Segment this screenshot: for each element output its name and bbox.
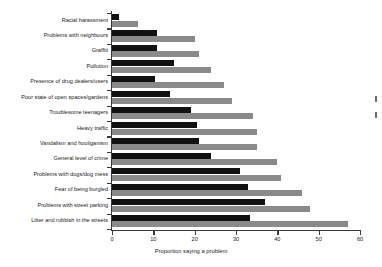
y-axis-tick (107, 229, 111, 230)
category-label: Poor state of open spaces/gardens (21, 94, 108, 101)
bar-light (112, 36, 195, 42)
x-axis-tick (195, 231, 196, 235)
bar-light (112, 159, 277, 165)
bar-dark (112, 60, 174, 66)
category-label: Racial harassment (62, 17, 108, 24)
x-axis-tick (319, 231, 320, 235)
category-label: Problems with street parking (37, 202, 108, 209)
category-label: Heavy traffic (77, 125, 108, 132)
bar-dark (112, 14, 119, 20)
x-axis-tick-label: 60 (357, 236, 363, 242)
bar-light (112, 129, 257, 135)
y-axis-tick (107, 121, 111, 122)
plot-area (112, 12, 360, 230)
y-axis-tick (107, 183, 111, 184)
bar-dark (112, 122, 197, 128)
y-axis-tick (107, 28, 111, 29)
y-axis-tick (107, 152, 111, 153)
category-label: Litter and rubbish in the streets (31, 217, 108, 224)
bar-chart: Racial harassmentProblems with neighbour… (0, 0, 382, 267)
bar-light (112, 206, 310, 212)
y-axis-tick (107, 13, 111, 14)
category-label: Graffiti (92, 47, 108, 54)
bar-dark (112, 199, 265, 205)
bar-dark (112, 168, 240, 174)
x-axis-tick-label: 10 (150, 236, 156, 242)
x-axis-title: Proportion saying a problem (0, 248, 382, 254)
y-axis-tick (107, 44, 111, 45)
bar-dark (112, 215, 250, 221)
scan-artifact-lower (375, 112, 377, 118)
bar-light (112, 51, 199, 57)
x-axis-tick (236, 231, 237, 235)
bar-dark (112, 184, 248, 190)
bar-light (112, 113, 253, 119)
bar-light (112, 175, 281, 181)
bar-light (112, 67, 211, 73)
y-axis-tick (107, 214, 111, 215)
bar-light (112, 190, 302, 196)
x-axis-tick (360, 231, 361, 235)
category-label: General level of crime (54, 155, 108, 162)
y-axis-tick (107, 59, 111, 60)
y-axis-tick (107, 136, 111, 137)
bar-light (112, 98, 232, 104)
y-axis-tick (107, 75, 111, 76)
category-label: Problems with dogs/dog mess (33, 171, 108, 178)
x-axis-tick (277, 231, 278, 235)
category-label: Problems with neighbours (44, 32, 108, 39)
x-axis-tick (153, 231, 154, 235)
x-axis-tick-label: 30 (233, 236, 239, 242)
x-axis-tick-label: 20 (192, 236, 198, 242)
bar-dark (112, 45, 157, 51)
x-axis-tick-label: 0 (110, 236, 113, 242)
bar-light (112, 82, 224, 88)
category-label: Presence of drug dealers/users (30, 78, 108, 85)
category-label: Fear of being burgled (55, 186, 108, 193)
bar-dark (112, 30, 157, 36)
bar-light (112, 221, 348, 227)
bar-dark (112, 107, 191, 113)
y-axis-tick (107, 106, 111, 107)
y-axis-tick (107, 90, 111, 91)
bar-light (112, 144, 257, 150)
scan-artifact-upper (375, 96, 377, 102)
category-label: Troublesome teenagers (49, 109, 108, 116)
x-axis-tick (112, 231, 113, 235)
bar-light (112, 21, 138, 27)
category-label: Vandalism and hooliganism (40, 140, 108, 147)
y-axis-tick (107, 198, 111, 199)
x-axis-tick-label: 50 (316, 236, 322, 242)
bar-dark (112, 76, 155, 82)
x-axis-tick-label: 40 (274, 236, 280, 242)
category-label: Pollution (87, 63, 108, 70)
bar-dark (112, 138, 199, 144)
bar-dark (112, 153, 211, 159)
y-axis-tick (107, 167, 111, 168)
bar-dark (112, 91, 170, 97)
